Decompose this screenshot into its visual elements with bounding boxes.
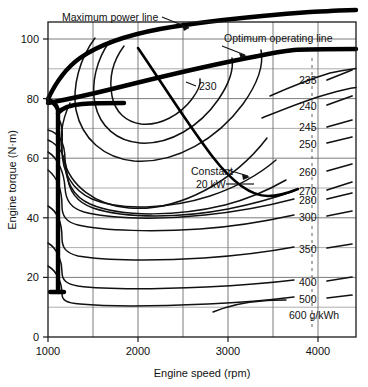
x-tick-label-3000: 3000	[216, 345, 240, 357]
annotation-maximum-power-line: Maximum power line	[62, 11, 158, 23]
y-tick-label-40: 40	[27, 212, 39, 224]
contour-label-350: 350	[299, 243, 317, 255]
engine-performance-map: 100 80 60 40 20 0 1000 2000 3000 4000 En…	[0, 0, 368, 387]
contour-label-250: 250	[299, 138, 317, 150]
contour-label-300: 300	[299, 211, 317, 223]
contour-label-230: 230	[199, 80, 217, 92]
annotation-constant-power: Constant	[191, 165, 233, 177]
contour-label-240: 240	[299, 100, 317, 112]
chart-canvas: 100 80 60 40 20 0 1000 2000 3000 4000 En…	[0, 0, 368, 387]
y-tick-label-0: 0	[33, 331, 39, 343]
y-tick-label-20: 20	[27, 271, 39, 283]
x-tick-label-4000: 4000	[306, 345, 330, 357]
contour-label-260: 260	[299, 166, 317, 178]
contour-label-280: 280	[299, 194, 317, 206]
contour-label-600: 600 g/kWh	[289, 309, 339, 321]
contour-label-235: 235	[299, 74, 317, 86]
y-axis-title: Engine torque (N·m)	[6, 130, 18, 230]
contour-label-245: 245	[299, 121, 317, 133]
x-tick-label-1000: 1000	[36, 345, 60, 357]
x-tick-label-2000: 2000	[126, 345, 150, 357]
y-tick-label-80: 80	[27, 93, 39, 105]
contour-label-500: 500	[299, 293, 317, 305]
y-tick-label-60: 60	[27, 152, 39, 164]
x-axis-title: Engine speed (rpm)	[154, 367, 251, 379]
annotation-optimum-operating-line: Optimum operating line	[224, 32, 333, 44]
y-tick-label-100: 100	[21, 33, 39, 45]
annotation-constant-power-value: 20 kW	[196, 178, 226, 190]
contour-label-400: 400	[299, 276, 317, 288]
